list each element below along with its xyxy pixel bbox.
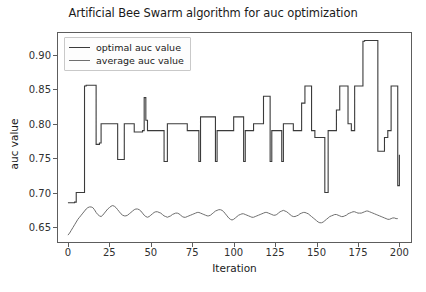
x-tick-mark <box>275 243 276 247</box>
line-average-auc-value <box>68 206 398 236</box>
x-axis-label: Iteration <box>57 262 412 274</box>
y-axis-tick-labels: 0.650.700.750.800.850.90 <box>0 0 51 292</box>
x-tick-label: 0 <box>65 247 71 258</box>
legend-label-average: average auc value <box>96 55 184 66</box>
x-tick-mark <box>399 243 400 247</box>
chart-figure: Artificial Bee Swarm algorithm for auc o… <box>0 0 426 292</box>
y-tick-label: 0.65 <box>29 221 51 232</box>
legend-line-swatch-optimal-icon <box>69 47 90 48</box>
x-tick-label: 25 <box>103 247 116 258</box>
chart-title: Artificial Bee Swarm algorithm for auc o… <box>0 6 426 20</box>
chart-legend: optimal auc value average auc value <box>64 37 191 71</box>
x-tick-label: 75 <box>186 247 199 258</box>
x-tick-mark <box>317 243 318 247</box>
legend-item-optimal: optimal auc value <box>69 41 184 54</box>
legend-label-optimal: optimal auc value <box>96 42 181 53</box>
x-tick-mark <box>68 243 69 247</box>
x-tick-mark <box>358 243 359 247</box>
x-tick-label: 200 <box>390 247 409 258</box>
x-tick-mark <box>109 243 110 247</box>
x-tick-mark <box>234 243 235 247</box>
x-tick-label: 150 <box>307 247 326 258</box>
x-tick-mark <box>192 243 193 247</box>
legend-line-swatch-average-icon <box>69 60 90 61</box>
y-tick-label: 0.90 <box>29 50 51 61</box>
y-tick-label: 0.70 <box>29 187 51 198</box>
y-tick-label: 0.85 <box>29 84 51 95</box>
x-tick-label: 125 <box>266 247 285 258</box>
x-tick-mark <box>151 243 152 247</box>
x-tick-label: 100 <box>224 247 243 258</box>
y-tick-label: 0.80 <box>29 118 51 129</box>
x-tick-label: 50 <box>144 247 157 258</box>
legend-item-average: average auc value <box>69 54 184 67</box>
x-tick-label: 175 <box>348 247 367 258</box>
y-tick-label: 0.75 <box>29 153 51 164</box>
